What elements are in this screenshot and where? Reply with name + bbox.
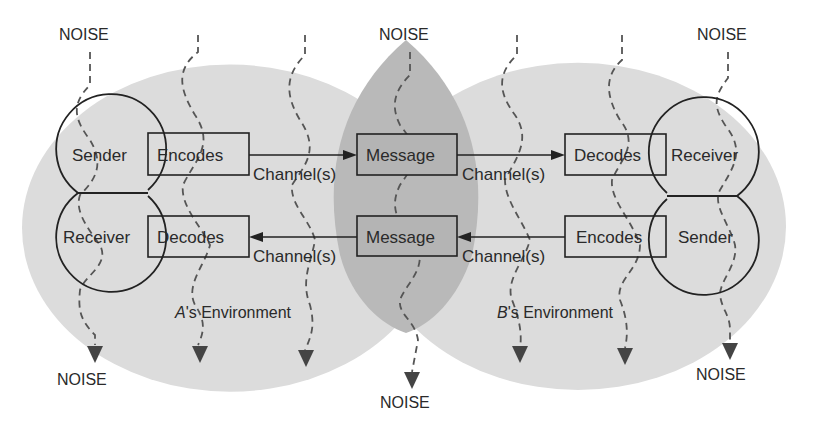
noise-label-bottom-left: NOISE [57,371,107,388]
environment-label-b: B's Environment [497,304,614,321]
channel-label-bottom-right: Channel(s) [462,247,545,266]
arrow-down-icon [722,343,738,360]
noise-label-top-left: NOISE [59,26,109,43]
receiver-label-b: Receiver [671,146,738,165]
channel-label-top-right: Channel(s) [462,165,545,184]
noise-label-bottom-right: NOISE [696,366,746,383]
environment-label-a: A's Environment [174,304,292,321]
decodes-label-b: Decodes [574,146,641,165]
sender-label-b: Sender [678,228,733,247]
arrow-down-icon [404,372,420,389]
noise-label-top-right: NOISE [697,26,747,43]
channel-label-top-left: Channel(s) [253,165,336,184]
noise-label-top-center: NOISE [379,26,429,43]
message-label-bottom: Message [366,228,435,247]
environment-overlap [334,40,479,333]
channel-label-bottom-left: Channel(s) [253,247,336,266]
encodes-label-b: Encodes [576,228,642,247]
message-label-top: Message [366,146,435,165]
communication-model-diagram: Sender Receiver Encodes Decodes Message … [0,0,814,432]
encodes-label-a: Encodes [157,146,223,165]
sender-label-a: Sender [72,146,127,165]
noise-label-bottom-center: NOISE [380,394,430,411]
decodes-label-a: Decodes [157,228,224,247]
receiver-label-a: Receiver [63,228,130,247]
